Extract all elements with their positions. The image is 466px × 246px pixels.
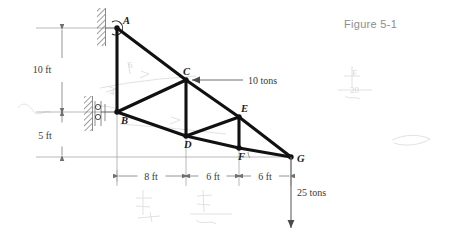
joint-label-B: B — [120, 115, 128, 126]
pencil-loop-right — [392, 135, 430, 145]
pencil-scribble-b1 — [136, 190, 152, 215]
joint-label-G: G — [297, 153, 305, 164]
figure-canvas: F2064 — [0, 0, 466, 246]
dim-label-h-2: 6 ft — [258, 171, 272, 182]
joint-dot-C — [183, 77, 188, 82]
extension-lines — [36, 28, 291, 186]
truss-members — [117, 28, 291, 157]
joint-label-A: A — [122, 15, 130, 26]
load-label-C: 10 tons — [248, 75, 277, 86]
pencil-scribble-b2 — [138, 212, 160, 222]
pencil-scribble-b3 — [197, 190, 212, 212]
member-AC — [117, 28, 186, 80]
joint-label-F: F — [237, 151, 245, 162]
pencil-mark-3: 4 — [110, 87, 115, 97]
horizontal-dimensions: 8 ft6 ft6 ft — [117, 170, 291, 182]
pencil-annotations-layer: F2064 — [18, 60, 430, 224]
pencil-fraction-denom — [345, 96, 360, 99]
member-CB — [117, 80, 186, 112]
member-CE — [186, 80, 239, 117]
joint-dot-D — [183, 133, 188, 138]
pencil-mark-0: F — [352, 68, 357, 78]
dim-label-h-0: 8 ft — [144, 171, 158, 182]
joint-label-C: C — [183, 66, 191, 77]
pencil-arrow-3 — [170, 117, 180, 124]
joint-label-D: D — [183, 139, 192, 150]
wall-hatch-a — [97, 8, 105, 46]
vertical-dimensions: 10 ft5 ft — [33, 30, 62, 155]
pencil-mark-1: 20 — [350, 85, 360, 95]
truss-diagram-svg: F2064 — [0, 0, 466, 246]
member-DF — [186, 136, 239, 148]
wall-hatch-b — [84, 96, 92, 131]
load-label-G: 25 tons — [297, 187, 326, 198]
pencil-mark-2: 6 — [128, 60, 133, 70]
joint-dot-E — [236, 114, 241, 119]
dim-label-h-1: 6 ft — [206, 171, 220, 182]
joint-dot-F — [236, 145, 241, 150]
joint-dot-A — [114, 25, 119, 30]
pencil-squiggle-left — [18, 104, 50, 114]
roller-circle-bottom — [95, 114, 100, 119]
support-B — [84, 96, 117, 131]
joint-dot-B — [114, 109, 119, 114]
pencil-scribble-b5 — [196, 220, 216, 224]
joint-label-E: E — [240, 103, 248, 114]
pencil-arrow-1 — [140, 71, 149, 78]
figure-title: Figure 5-1 — [344, 18, 397, 30]
member-DE — [186, 117, 239, 136]
dim-label-v-1: 5 ft — [38, 130, 52, 141]
dim-label-v-0: 10 ft — [33, 64, 52, 75]
